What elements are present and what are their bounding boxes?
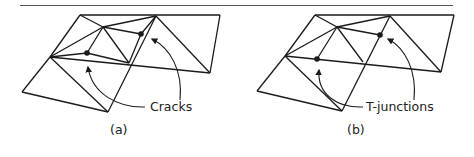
cracks-label: Cracks [150,99,192,114]
panel-a-caption: (a) [110,122,127,137]
panel-b-caption: (b) [347,122,365,137]
t-junctions-label: T-junctions [366,99,434,114]
panel-b-arrows [319,39,415,107]
mesh-diagram [0,0,474,157]
panel-a-mesh [22,15,220,112]
panel-b-mesh [257,15,454,111]
